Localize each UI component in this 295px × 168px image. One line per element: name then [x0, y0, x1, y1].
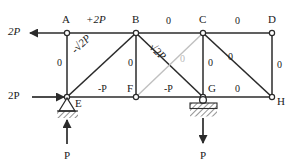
member-force-AB: +2P [86, 14, 106, 25]
member-force-FG: -P [164, 84, 173, 94]
load-label-G: P [200, 150, 206, 161]
joint-A [64, 30, 69, 35]
member-force-AE: 0 [57, 58, 62, 68]
reaction-label-E: P [64, 150, 70, 161]
node-label-G: G [208, 83, 216, 94]
node-label-E: E [75, 98, 82, 109]
member-force-BF: 0 [128, 58, 133, 68]
roller-support-hatch [190, 109, 217, 117]
load-label-E: 2P [8, 90, 20, 101]
joint-H [269, 94, 274, 99]
member-force-CD: 0 [235, 16, 240, 26]
pin-support-triangle [59, 98, 75, 111]
joint-C [200, 30, 205, 35]
member-force-EF: -P [98, 84, 107, 94]
joint-B [133, 30, 138, 35]
pin-support-hatch [57, 111, 78, 118]
node-label-A: A [62, 14, 70, 25]
roller-support-wheel [200, 97, 207, 104]
node-label-B: B [132, 14, 139, 25]
member-force-DH: 0 [277, 60, 282, 70]
roller-support-plate [190, 103, 217, 109]
node-label-C: C [199, 14, 206, 25]
joint-D [269, 30, 274, 35]
load-label-A: 2P [8, 26, 20, 37]
node-label-H: H [277, 96, 285, 107]
member-force-CG: 0 [208, 58, 213, 68]
node-label-F: F [127, 83, 133, 94]
support-G [190, 97, 217, 117]
node-label-D: D [268, 14, 276, 25]
truss-diagram: A B C D E F G H +2P 0 0 0 0 0 0 -√2P √2P… [0, 0, 295, 168]
truss-svg [0, 0, 295, 168]
joint-F [133, 94, 138, 99]
member-force-BC: 0 [166, 16, 171, 26]
member-force-GH: 0 [235, 84, 240, 94]
member-force-FC: 0 [180, 54, 185, 64]
member-force-CH: 0 [228, 52, 233, 62]
loads-group [30, 33, 203, 144]
